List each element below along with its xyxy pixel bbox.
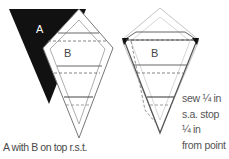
piece-a-label: A [36,23,44,35]
note-line: from point [182,138,226,154]
left-figure: A B [9,9,113,138]
piece-b-label-right: B [151,47,158,59]
piece-b-label-left: B [64,47,71,59]
left-caption: A with B on top r.s.t. [3,141,87,153]
sewing-note: sew ¼ in s.a. stop ¼ in from point [182,91,226,153]
note-line: ¼ in [182,122,226,138]
note-line: s.a. stop [182,107,226,123]
note-line: sew ¼ in [182,91,226,107]
